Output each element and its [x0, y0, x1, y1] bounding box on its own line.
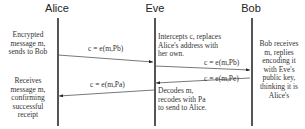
eve-note-bottom: Decodes m, recodes with Pa to send to Al… — [158, 87, 238, 113]
arrow-alice-to-eve — [58, 55, 153, 62]
message-label-alice-eve: c = e(m,Pb) — [88, 44, 123, 53]
message-label-eve-alice: c = e(m,Pa) — [90, 80, 125, 89]
alice-note-top: Encrypted message m, sends to Bob — [2, 31, 54, 57]
bob-note: Bob receives m, replies encoding it with… — [253, 40, 305, 100]
message-label-eve-bob: c = e(m,Pb) — [204, 58, 239, 67]
message-label-bob-eve: c = e(m,Pe) — [204, 74, 239, 83]
arrow-eve-to-alice — [59, 90, 154, 96]
eve-note-top: Intercepts c, replaces Alice's address w… — [158, 33, 250, 59]
alice-note-bottom: Receives message m, confirming successfu… — [2, 77, 54, 120]
